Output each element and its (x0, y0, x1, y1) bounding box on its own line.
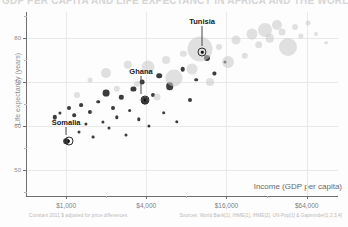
annotation-leader-line (140, 76, 141, 94)
data-bubble (247, 28, 258, 39)
data-bubble (97, 100, 101, 104)
x-gridline (307, 12, 308, 196)
annotation-leader-line (66, 127, 67, 135)
data-bubble (124, 133, 127, 136)
data-bubble (306, 21, 311, 26)
data-bubble (156, 73, 162, 79)
data-bubble (58, 111, 61, 114)
y-tick-minor (24, 192, 27, 193)
data-bubble (67, 106, 71, 110)
data-bubble (111, 106, 115, 110)
data-bubble (292, 24, 298, 30)
data-bubble (188, 98, 192, 102)
y-tick-label: 80 (14, 35, 21, 41)
x-tick-minor (186, 196, 187, 198)
footnote-right: Sources: World Bank[1], IHME[1], IHME[2]… (179, 213, 342, 218)
data-bubble (128, 109, 132, 113)
x-tick (226, 196, 227, 199)
data-bubble (103, 90, 110, 97)
data-bubble (213, 72, 216, 75)
x-tick-label: $16,000 (215, 202, 239, 209)
data-bubble (162, 111, 166, 115)
y-tick-minor (24, 60, 27, 61)
x-tick-label: $1,000 (56, 202, 76, 209)
data-bubble (266, 34, 274, 42)
data-bubble (78, 131, 81, 134)
data-bubble (166, 69, 183, 86)
data-bubble (84, 122, 87, 125)
data-bubble (115, 115, 118, 118)
x-tick (307, 196, 308, 199)
y-tick-minor (24, 148, 27, 149)
y-tick-label: 60 (14, 123, 21, 129)
y-tick-label: 70 (14, 79, 21, 85)
data-bubble (314, 32, 318, 36)
x-tick-label: $4,000 (136, 202, 156, 209)
x-tick-minor (106, 196, 107, 198)
footnote-left: Constant 2011 $ adjusted for price diffe… (29, 213, 129, 218)
data-bubble (87, 77, 92, 82)
y-gridline (26, 82, 338, 83)
data-bubble (279, 38, 297, 56)
data-bubble (87, 110, 91, 114)
data-bubble (255, 41, 263, 49)
y-tick (23, 82, 27, 83)
y-gridline (26, 170, 338, 171)
y-tick (23, 126, 27, 127)
x-axis-line (26, 196, 338, 197)
x-tick (146, 196, 147, 199)
data-bubble (206, 78, 214, 86)
y-tick (23, 38, 27, 39)
data-bubble (180, 50, 186, 56)
x-tick (66, 196, 67, 199)
x-tick-minor (267, 196, 268, 198)
data-bubble (175, 120, 178, 123)
data-bubble (180, 67, 185, 72)
y-tick (23, 170, 27, 171)
data-bubble (137, 118, 140, 121)
annotation-label-somalia: Somalia (52, 118, 81, 127)
data-bubble (119, 95, 123, 99)
data-bubble (195, 78, 199, 82)
data-bubble (79, 103, 83, 107)
data-bubble (162, 56, 170, 64)
data-bubble (148, 124, 151, 127)
y-tick-label: 50 (14, 167, 21, 173)
data-bubble (279, 28, 286, 35)
plot-area: 80706050$1,000$4,000$16,000$64,000Tunisi… (26, 12, 338, 196)
data-bubble (232, 36, 241, 45)
clipped-headline: GDP PER CAPITA AND LIFE EXPECTANCY IN AF… (0, 0, 348, 9)
data-bubble (242, 53, 248, 59)
data-bubble (216, 44, 222, 50)
x-gridline (226, 12, 227, 196)
data-bubble (153, 94, 160, 101)
data-bubble (114, 85, 120, 91)
data-bubble (72, 113, 76, 117)
data-bubble (102, 120, 105, 123)
annotation-label-ghana: Ghana (129, 67, 152, 76)
data-bubble (325, 41, 329, 45)
data-bubble (134, 81, 140, 87)
data-bubble (108, 127, 111, 130)
data-bubble (101, 68, 111, 78)
data-bubble (186, 63, 197, 74)
data-bubble (222, 56, 234, 68)
data-bubble (92, 135, 95, 138)
chart-canvas: GDP PER CAPITA AND LIFE EXPECTANCY IN AF… (0, 0, 348, 227)
y-tick-minor (24, 104, 27, 105)
x-tick-label: $64,000 (295, 202, 319, 209)
annotation-label-tunisia: Tunisia (189, 16, 215, 25)
x-gridline (66, 12, 67, 196)
annotation-leader-line (202, 26, 203, 47)
y-tick-minor (24, 16, 27, 17)
data-bubble (74, 92, 80, 98)
